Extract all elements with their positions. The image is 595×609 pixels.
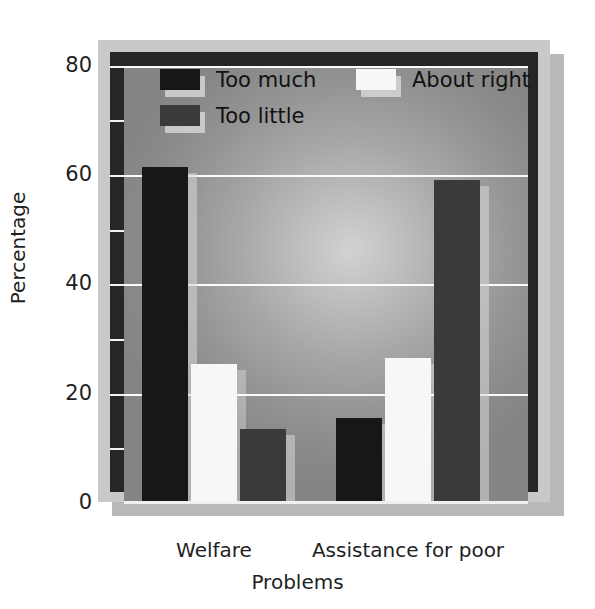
bar-fill (240, 429, 286, 503)
legend-swatch-too-much (160, 69, 204, 92)
y-minor-tick-30 (110, 339, 125, 341)
bar-welfare-too-much (142, 167, 188, 503)
y-tick-label-20: 20 (65, 383, 92, 404)
bar-shadow (286, 435, 295, 503)
bar-assistance-for-poor-about-right (385, 358, 431, 503)
y-minor-tick-60 (110, 175, 125, 177)
bar-welfare-too-little (240, 429, 286, 503)
bar-shadow (480, 186, 489, 503)
y-tick-label-40: 40 (65, 273, 92, 294)
legend-item-about-right: About right (356, 68, 530, 92)
legend-swatch-too-little (160, 105, 204, 128)
legend-label-about-right: About right (412, 68, 530, 92)
y-tick-label-0: 0 (79, 492, 92, 513)
y-minor-tick-10 (110, 448, 125, 450)
legend-label-too-little: Too little (216, 104, 305, 128)
legend-row-2: Too little (160, 104, 520, 140)
legend-item-too-little: Too little (160, 104, 305, 128)
legend-item-too-much: Too much (160, 68, 316, 92)
y-minor-tick-40 (110, 284, 125, 286)
legend-swatch-fill (160, 69, 200, 90)
legend-swatch-about-right (356, 69, 400, 92)
x-axis-title: Problems (0, 570, 595, 594)
bar-fill (385, 358, 431, 503)
y-tick-label-80: 80 (65, 55, 92, 76)
y-minor-tick-20 (110, 394, 125, 396)
bar-fill (142, 167, 188, 503)
legend-swatch-fill (356, 69, 396, 90)
legend-swatch-fill (160, 105, 200, 126)
y-minor-tick-80 (110, 66, 125, 68)
bar-fill (191, 364, 237, 503)
bar-assistance-for-poor-too-much (336, 418, 382, 503)
y-tick-label-60: 60 (65, 164, 92, 185)
bar-fill (336, 418, 382, 503)
x-tick-label-assistance-for-poor: Assistance for poor (268, 538, 548, 562)
chart-legend: Too much About right Too little (160, 68, 520, 140)
y-minor-tick-50 (110, 230, 125, 232)
legend-label-too-much: Too much (216, 68, 316, 92)
y-axis-title: Percentage (6, 168, 30, 328)
legend-row-1: Too much About right (160, 68, 520, 104)
bar-assistance-for-poor-too-little (434, 180, 480, 503)
bar-chart-figure: 80 60 40 20 0 Percentage Too much (0, 0, 595, 609)
bar-welfare-about-right (191, 364, 237, 503)
y-minor-tick-70 (110, 120, 125, 122)
floor-shadow-slab (112, 504, 552, 516)
bar-fill (434, 180, 480, 503)
